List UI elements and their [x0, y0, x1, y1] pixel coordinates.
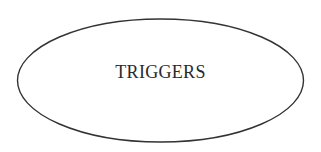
triggers-label: TRIGGERS [0, 61, 321, 83]
